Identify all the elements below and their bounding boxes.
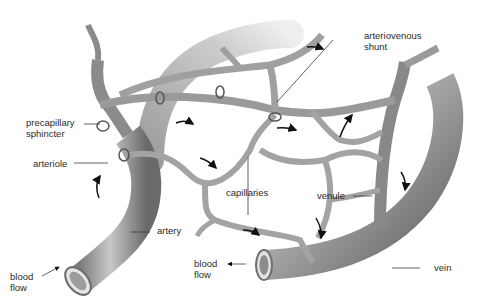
label-arteriole: arteriole bbox=[33, 158, 67, 169]
label-arteriovenous-line1: arteriovenous bbox=[364, 30, 422, 41]
label-vein: vein bbox=[434, 262, 451, 273]
label-arteriovenous-shunt: arteriovenous shunt bbox=[364, 30, 422, 52]
label-precapillary-sphincter: precapillary sphincter bbox=[26, 117, 75, 139]
label-precapillary-line1: precapillary bbox=[26, 117, 75, 128]
label-precapillary-line2: sphincter bbox=[26, 128, 75, 139]
label-blood-flow-right: blood flow bbox=[194, 258, 217, 280]
label-capillaries: capillaries bbox=[226, 187, 268, 198]
label-blood-flow-right-line2: flow bbox=[194, 269, 217, 280]
label-artery: artery bbox=[157, 225, 181, 236]
label-blood-flow-left-line2: flow bbox=[10, 282, 33, 293]
label-blood-flow-left: blood flow bbox=[10, 271, 33, 293]
label-venule: venule bbox=[317, 190, 345, 201]
label-arteriovenous-line2: shunt bbox=[364, 41, 422, 52]
label-blood-flow-left-line1: blood bbox=[10, 271, 33, 282]
label-blood-flow-right-line1: blood bbox=[194, 258, 217, 269]
